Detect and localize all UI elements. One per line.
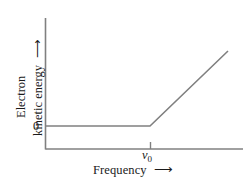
photoelectric-effect-figure: Electron kinetic energy ⟶ 0 ν0 Frequency…: [0, 0, 251, 184]
y-axis-tick-label-zero: 0: [33, 119, 39, 134]
y-axis-title-line-1-text: Electron: [14, 76, 28, 118]
x-axis-title: Frequency ⟶: [93, 162, 172, 178]
kinetic-energy-curve: [46, 51, 228, 126]
y-axis-title-line-1: Electron: [14, 76, 29, 118]
x-axis-arrow-icon: ⟶: [154, 162, 172, 178]
x-axis-title-text: Frequency: [93, 163, 147, 177]
y-axis-title-group: Electron kinetic energy ⟶: [0, 0, 46, 150]
y-axis-arrow-icon: ⟶: [30, 40, 46, 58]
